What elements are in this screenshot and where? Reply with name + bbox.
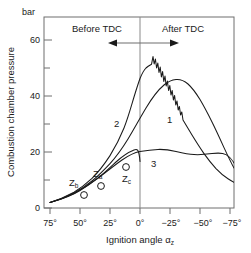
y-tick-label-0: 0: [35, 203, 40, 213]
x-tick-label-25: 25°: [103, 218, 117, 228]
svg-text:Za: Za: [93, 168, 103, 180]
x-axis-title-base: Ignition angle α: [106, 234, 171, 245]
x-axis-title-sub: z: [171, 239, 174, 246]
x-tick-label-m75: −75°: [223, 218, 242, 228]
y-tick-0: 0: [35, 203, 52, 213]
x-tick-m75: −75°: [223, 208, 242, 228]
x-axis-title: Ignition angle αz: [106, 234, 174, 246]
y-axis-title: Combustion chamber pressure: [5, 47, 16, 177]
x-axis-ticks: 75° 50° 25° 0° −25° −50° −75°: [43, 208, 242, 228]
y-tick-40: 40: [30, 91, 52, 101]
marker-Za-sub: a: [99, 173, 103, 180]
x-tick-25: 25°: [103, 208, 117, 228]
marker-Zc-sub: c: [128, 178, 132, 185]
after-tdc-label: After TDC: [162, 23, 204, 34]
marker-label-Zb: Zb: [69, 177, 79, 189]
x-tick-50: 50°: [73, 208, 87, 228]
y-tick-20: 20: [30, 147, 52, 157]
x-tick-label-m50: −50°: [194, 218, 213, 228]
marker-Zb-sub: b: [75, 182, 79, 189]
x-tick-m50: −50°: [194, 208, 213, 228]
y-tick-60: 60: [30, 35, 52, 45]
marker-Zc: [123, 164, 130, 171]
svg-text:Zc: Zc: [122, 173, 132, 185]
before-tdc-label: Before TDC: [72, 23, 122, 34]
svg-text:Zb: Zb: [69, 177, 79, 189]
series-2-label: 2: [114, 118, 119, 129]
x-tick-m25: −25°: [162, 208, 181, 228]
svg-text:Ignition angle αz: Ignition angle αz: [106, 234, 174, 246]
series-3-label: 3: [151, 158, 156, 169]
series-1-label: 1: [167, 114, 172, 125]
x-tick-0: 0°: [136, 208, 145, 228]
marker-label-Za: Za: [93, 168, 103, 180]
marker-label-Zc: Zc: [122, 173, 132, 185]
y-tick-label-60: 60: [30, 35, 40, 45]
marker-Zb: [81, 192, 88, 199]
chart-figure: bar Combustion chamber pressure 0 20 40 …: [0, 0, 251, 253]
combustion-pressure-chart: bar Combustion chamber pressure 0 20 40 …: [0, 0, 251, 253]
x-tick-label-50: 50°: [73, 218, 87, 228]
y-unit-label: bar: [22, 7, 35, 17]
y-tick-label-20: 20: [30, 147, 40, 157]
series-2-curve: [50, 57, 234, 203]
x-tick-label-75: 75°: [43, 218, 57, 228]
x-tick-label-0: 0°: [136, 218, 145, 228]
y-axis-ticks: 0 20 40 60: [30, 35, 52, 213]
tdc-span-arrow: [108, 40, 179, 47]
y-tick-label-40: 40: [30, 91, 40, 101]
x-tick-75: 75°: [43, 208, 57, 228]
x-tick-label-m25: −25°: [162, 218, 181, 228]
marker-Za: [98, 183, 105, 190]
